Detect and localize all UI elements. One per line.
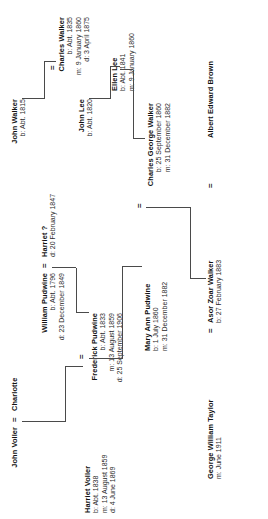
marriage-symbol-voller-charlotte: = (11, 417, 19, 422)
person-frederick-pudwine[interactable]: Frederick Pudwine b: Abt. 1833 m: 13 Aug… (90, 313, 125, 423)
person-john-walker[interactable]: John Walker b: Abt. 1815 (10, 99, 28, 179)
connector-line (44, 61, 56, 62)
connector-line (65, 366, 83, 367)
person-name: Mary Ann Pudwine (143, 229, 152, 351)
connector-line (52, 267, 76, 268)
person-name: John Lee (77, 99, 86, 179)
person-charles-george-walker[interactable]: Charles George Walker b: 25 September 18… (146, 103, 172, 229)
marriage-symbol-charles-ellen: = (49, 65, 57, 70)
person-asor-zoar-walker[interactable]: Asor Zoar Walker b: 27 February 1883 (206, 205, 224, 323)
person-charles-walker[interactable]: Charles Walker b: Abt. 1835 m: 9 January… (57, 17, 92, 109)
person-name: Ellen Lee (110, 0, 119, 91)
person-event-birth: b: Abt. 1833 (99, 313, 108, 423)
person-event-marriage: m: 31 December 1882 (164, 103, 173, 229)
person-mary-ann-pudwine[interactable]: Mary Ann Pudwine b: 1 July 1860 m: 31 De… (143, 229, 169, 351)
marriage-symbol-frederick-harrietvoller: = (78, 354, 86, 359)
person-name: Albert Edward Brown (206, 61, 215, 179)
person-name: William Pudwine (40, 273, 49, 389)
person-event-death: d: 3 April 1875 (83, 17, 92, 109)
person-name: Frederick Pudwine (90, 313, 99, 423)
connector-line (190, 207, 191, 279)
connector-line (146, 207, 190, 208)
person-name: Charles George Walker (146, 103, 155, 229)
person-name: Harriet ? (40, 147, 49, 257)
person-event-death: d: 20 February 1847 (49, 147, 58, 257)
person-event-marriage: m: 9 January 1860 (128, 0, 137, 91)
person-event-birth: b: Abt. 1841 (119, 0, 128, 91)
person-name: Harriet Voller (83, 413, 92, 513)
person-event-death: d: 25 September 1906 (116, 313, 125, 423)
person-harriet-voller[interactable]: Harriet Voller b: Abt. 1838 m: 13 August… (83, 413, 118, 513)
person-george-william-taylor[interactable]: George William Taylor m: June 1911 (206, 337, 224, 479)
connector-line (120, 69, 133, 70)
person-event-marriage: m: 13 August 1859 (101, 413, 110, 513)
person-event-marriage: m: 9 January 1860 (75, 17, 84, 109)
person-charlotte[interactable]: Charlotte (10, 331, 19, 411)
person-event-birth: b: 27 February 1883 (215, 205, 224, 323)
person-event-birth: b: 25 September 1860 (155, 103, 164, 229)
connector-line (76, 312, 89, 313)
person-name: John Walker (10, 99, 19, 179)
person-william-pudwine[interactable]: William Pudwine b: Abt. 1796 d: 23 Decem… (40, 273, 66, 389)
person-event-birth: b: Abt. 1796 (49, 273, 58, 389)
person-event-marriage: m: 31 December 1882 (161, 229, 170, 351)
person-event-birth: b: 1 July 1860 (152, 229, 161, 351)
person-name: Charlotte (10, 331, 19, 411)
connector-line (190, 278, 206, 279)
person-event-marriage: m: June 1911 (215, 337, 224, 479)
connector-line (76, 268, 77, 313)
marriage-symbol-pudwine-harriet: = (41, 263, 49, 268)
connector-line (133, 70, 134, 139)
person-name: Asor Zoar Walker (206, 205, 215, 323)
connector-line (44, 62, 45, 99)
connector-line (89, 98, 110, 99)
connector-line (133, 138, 145, 139)
connector-line (89, 358, 122, 359)
person-event-birth: b: Abt. 1835 (66, 17, 75, 109)
person-event-death: d: 4 June 1869 (109, 413, 118, 513)
person-john-voller[interactable]: John Voller (10, 427, 19, 513)
person-event-birth: b: Abt. 1820 (86, 99, 95, 179)
connector-line (122, 267, 123, 359)
connector-line (122, 266, 142, 267)
person-name: John Voller (10, 427, 19, 513)
genealogy-chart: John Voller = Charlotte William Pudwine … (0, 0, 268, 519)
connector-line (22, 421, 65, 422)
person-name: George William Taylor (206, 337, 215, 479)
person-name: Charles Walker (57, 17, 66, 109)
connector-line (22, 98, 44, 99)
person-event-death: d: 23 December 1849 (58, 273, 67, 389)
marriage-symbol-asor-taylor: = (207, 328, 215, 333)
person-john-lee[interactable]: John Lee b: Abt. 1820 (77, 99, 95, 179)
person-event-birth: b: Abt. 1815 (19, 99, 28, 179)
person-albert-edward-brown[interactable]: Albert Edward Brown (206, 61, 215, 179)
person-event-marriage: m: 13 August 1859 (108, 313, 117, 423)
person-event-birth: b: Abt. 1838 (92, 413, 101, 513)
rotated-chart-wrapper: John Voller = Charlotte William Pudwine … (0, 0, 268, 519)
marriage-symbol-cgw-maryann: = (136, 203, 144, 208)
marriage-symbol-brown-asor: = (207, 183, 215, 188)
person-harriet-q[interactable]: Harriet ? d: 20 February 1847 (40, 147, 58, 257)
